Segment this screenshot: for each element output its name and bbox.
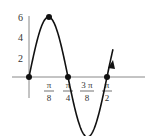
svg-text:3 π: 3 π [81, 80, 93, 90]
y-tick-4: 4 [18, 32, 23, 43]
chart: 6 4 2 π 8 π 4 3 π 8 π 2 [0, 0, 149, 136]
y-tick-6: 6 [18, 12, 23, 23]
svg-text:π: π [47, 80, 52, 90]
svg-text:2: 2 [105, 93, 110, 103]
point-peak [46, 14, 52, 20]
svg-text:8: 8 [85, 93, 90, 103]
point-pi-4 [65, 74, 71, 80]
y-tick-2: 2 [18, 53, 23, 64]
point-pi-2 [104, 74, 110, 80]
svg-text:4: 4 [66, 93, 71, 103]
point-origin [26, 74, 32, 80]
svg-text:8: 8 [47, 93, 52, 103]
x-tick-3pi-8: 3 π 8 [80, 80, 94, 103]
x-tick-pi-8: π 8 [44, 80, 54, 103]
